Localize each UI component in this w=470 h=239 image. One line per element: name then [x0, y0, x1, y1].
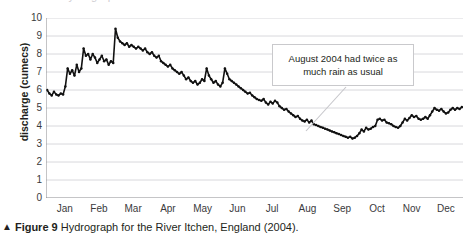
data-point	[242, 89, 245, 92]
y-tick-label: 6	[16, 85, 42, 95]
data-point	[205, 67, 208, 70]
figure-caption: ▲Figure 9 Hydrograph for the River Itche…	[2, 220, 468, 234]
data-point	[249, 91, 252, 94]
data-point	[144, 47, 147, 50]
data-point	[274, 100, 277, 103]
data-point	[328, 129, 331, 132]
data-point	[315, 124, 318, 127]
y-tick-label: 0	[16, 193, 42, 203]
data-point	[117, 37, 120, 40]
data-point	[458, 108, 461, 111]
data-point	[422, 118, 425, 121]
y-tick-label: 2	[16, 157, 42, 167]
data-point	[420, 118, 423, 121]
data-point	[212, 82, 215, 85]
data-point	[105, 58, 108, 61]
data-point	[381, 119, 384, 122]
data-point	[85, 55, 88, 58]
data-point	[146, 51, 149, 54]
x-tick-label-dec: Dec	[426, 203, 466, 215]
data-point	[142, 49, 145, 52]
data-point	[126, 42, 129, 45]
data-point	[128, 46, 131, 49]
data-point	[112, 62, 115, 65]
data-point	[174, 69, 177, 72]
data-point	[256, 98, 259, 101]
x-tick-label-jul: Jul	[252, 203, 292, 215]
data-point	[148, 53, 151, 56]
data-point	[354, 136, 357, 139]
data-point	[347, 136, 350, 139]
data-point	[426, 118, 429, 121]
data-point	[342, 135, 345, 138]
data-point	[244, 91, 247, 94]
annotation-line-1: August 2004 had twice as	[289, 53, 398, 64]
y-axis-tick-labels: 012345678910	[12, 0, 42, 239]
data-point	[101, 55, 104, 58]
data-point	[429, 114, 432, 117]
data-point	[246, 92, 249, 95]
data-point	[167, 65, 170, 68]
data-point	[392, 125, 395, 128]
data-point	[310, 119, 313, 122]
data-point	[324, 127, 327, 130]
data-point	[447, 111, 450, 114]
data-point	[424, 116, 427, 119]
data-point	[151, 51, 154, 54]
data-point	[162, 62, 165, 65]
data-point	[445, 112, 448, 115]
data-point	[76, 64, 79, 67]
data-point	[436, 109, 439, 112]
data-point	[160, 60, 163, 63]
data-point	[269, 100, 272, 103]
data-point	[317, 125, 320, 128]
data-point	[119, 40, 122, 43]
data-point	[94, 56, 97, 59]
data-point	[123, 44, 126, 47]
annotation-line-2: much rain as usual	[303, 66, 383, 77]
data-point	[413, 116, 416, 119]
data-point	[438, 109, 441, 112]
data-point	[319, 126, 322, 128]
data-point	[408, 117, 411, 120]
data-point	[217, 83, 220, 86]
data-point	[240, 87, 243, 90]
data-point	[333, 131, 336, 134]
data-point	[287, 110, 290, 113]
data-point	[285, 108, 288, 111]
data-point	[121, 42, 124, 45]
data-point	[379, 118, 382, 121]
data-point	[290, 112, 293, 115]
y-tick-label: 1	[16, 175, 42, 185]
data-point	[294, 116, 297, 119]
data-point	[132, 46, 135, 49]
data-point	[185, 78, 188, 81]
data-point	[322, 127, 325, 130]
data-point	[192, 82, 195, 85]
figure-hydrograph: discharge (cumecs) 012345678910 JanFebMa…	[0, 0, 470, 239]
data-point	[64, 85, 67, 88]
data-point	[203, 80, 206, 83]
data-point	[440, 108, 443, 111]
data-point	[410, 114, 413, 117]
data-point	[73, 74, 76, 77]
data-point	[267, 103, 270, 106]
data-point	[383, 118, 386, 121]
data-point	[153, 55, 156, 58]
data-point	[48, 92, 51, 95]
data-point	[276, 101, 279, 104]
data-point	[258, 99, 261, 102]
data-point	[53, 91, 56, 94]
data-point	[292, 114, 295, 117]
data-point	[237, 85, 240, 88]
data-point	[78, 71, 81, 74]
data-point	[376, 118, 379, 121]
annotation-callout-text: August 2004 had twice as much rain as us…	[281, 52, 406, 78]
data-point	[135, 47, 138, 50]
data-point	[388, 122, 391, 125]
data-point	[196, 83, 199, 86]
y-tick-label: 7	[16, 67, 42, 77]
data-point	[326, 128, 329, 131]
annotation-callout: August 2004 had twice as much rain as us…	[272, 44, 414, 86]
data-point	[82, 47, 85, 50]
